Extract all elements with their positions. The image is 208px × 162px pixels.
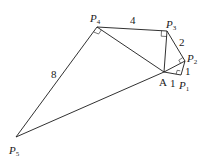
- label-p3: P3: [165, 18, 177, 32]
- right-angle-p3: [161, 31, 167, 37]
- edge-a-p1: [164, 72, 181, 75]
- spiral-triangles-diagram: P4 P3 P2 P1 P5 A 4 2 1 1 8: [0, 0, 208, 162]
- edge-label-p4p5: 8: [51, 68, 57, 80]
- right-angle-p1: [176, 70, 180, 74]
- edge-p3-p4: [97, 27, 167, 31]
- edge-label-p2p3: 2: [179, 36, 185, 48]
- edge-label-ap1: 1: [170, 77, 176, 89]
- spoke-a-p5: [16, 72, 164, 137]
- edge-label-p1p2: 1: [185, 65, 191, 77]
- label-p4: P4: [89, 12, 101, 26]
- label-a: A: [159, 76, 167, 88]
- label-p5: P5: [8, 144, 20, 158]
- edge-label-p3p4: 4: [130, 14, 136, 26]
- label-p1: P1: [178, 79, 190, 93]
- spoke-a-p2: [164, 61, 185, 72]
- label-p2: P2: [186, 52, 198, 66]
- spoke-a-p4: [97, 27, 164, 72]
- spoke-a-p3: [164, 31, 167, 72]
- edge-p4-p5: [16, 27, 97, 137]
